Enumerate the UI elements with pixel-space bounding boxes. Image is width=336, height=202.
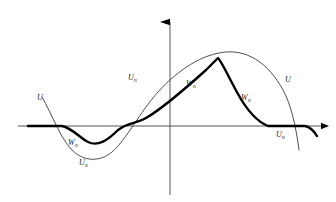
curve-wn-bold: [28, 58, 317, 144]
label-wn-upper-mid: Wn: [186, 80, 195, 88]
label-u-right: U: [285, 76, 291, 84]
label-wn-upper-mid-subscript: n: [193, 83, 196, 89]
label-wn-lower-left: Wn: [68, 139, 77, 147]
label-wn-lower-left-base: W: [68, 138, 75, 147]
label-un-upper-mid-subscript: n: [134, 77, 137, 83]
label-un-upper-mid: Un: [128, 74, 137, 82]
label-wn-right-base: W: [241, 93, 248, 102]
label-un-bottom-right: Un: [276, 131, 285, 139]
label-un-bottom-subscript: n: [85, 162, 88, 168]
label-un-bottom-right-base: U: [276, 130, 282, 139]
label-wn-lower-left-subscript: n: [75, 142, 78, 148]
label-wn-right: Wn: [241, 94, 250, 102]
figure-canvas: [0, 0, 336, 202]
label-u-right-base: U: [285, 75, 291, 84]
label-wn-right-subscript: n: [248, 97, 251, 103]
label-un-bottom-right-subscript: n: [282, 134, 285, 140]
label-u-left-base: U: [37, 93, 43, 102]
label-un-upper-mid-base: U: [128, 73, 134, 82]
label-wn-upper-mid-base: W: [186, 79, 193, 88]
label-un-bottom: Un: [79, 159, 88, 167]
label-u-left: U: [37, 94, 43, 102]
figure-container: UWnUnUnWnWnUUn: [0, 0, 336, 202]
label-un-bottom-base: U: [79, 158, 85, 167]
